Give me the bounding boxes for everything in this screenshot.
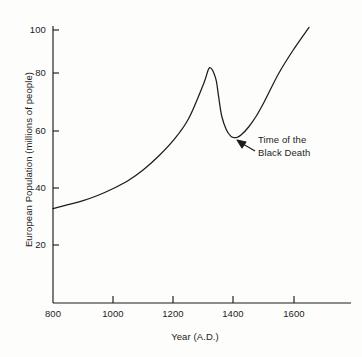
chart-plot-area [0, 0, 362, 357]
annotation-line-1: Time of the [258, 134, 310, 147]
black-death-arrow-icon [237, 140, 255, 151]
annotation-line-2: Black Death [258, 147, 310, 160]
x-tick-label-1400: 1400 [216, 308, 250, 319]
y-axis-ticks [53, 30, 59, 245]
x-axis-ticks [113, 296, 294, 303]
population-curve [53, 27, 309, 208]
y-tick-label-100: 100 [22, 24, 46, 35]
black-death-annotation-label: Time of the Black Death [258, 134, 310, 159]
x-tick-label-1000: 1000 [96, 308, 130, 319]
x-tick-label-800: 800 [36, 308, 70, 319]
x-tick-label-1200: 1200 [156, 308, 190, 319]
population-chart-figure: 100 80 60 40 20 800 1000 1200 1400 1600 … [0, 0, 362, 357]
y-axis-title: European Population (millions of people) [23, 60, 34, 260]
x-tick-label-1600: 1600 [277, 308, 311, 319]
x-axis-title: Year (A.D.) [110, 331, 280, 342]
